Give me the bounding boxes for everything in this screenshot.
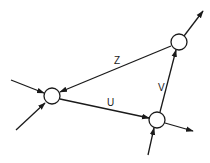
input-arrow-bottom-right	[148, 128, 154, 155]
output-arrow-top-right	[184, 11, 203, 36]
label-u: U	[107, 97, 114, 108]
node-bottom-right	[149, 112, 165, 128]
edge-v	[160, 50, 176, 112]
node-top-right	[171, 34, 187, 50]
flow-diagram: Z U V	[0, 0, 210, 163]
label-z: Z	[114, 55, 120, 66]
label-v: V	[158, 82, 165, 93]
edge-z	[60, 46, 171, 92]
output-arrow-bottom-right	[165, 123, 193, 131]
edge-u	[60, 99, 149, 118]
node-left	[44, 88, 60, 104]
input-arrow-left-upper	[11, 80, 44, 93]
input-arrow-left-lower	[16, 103, 45, 130]
